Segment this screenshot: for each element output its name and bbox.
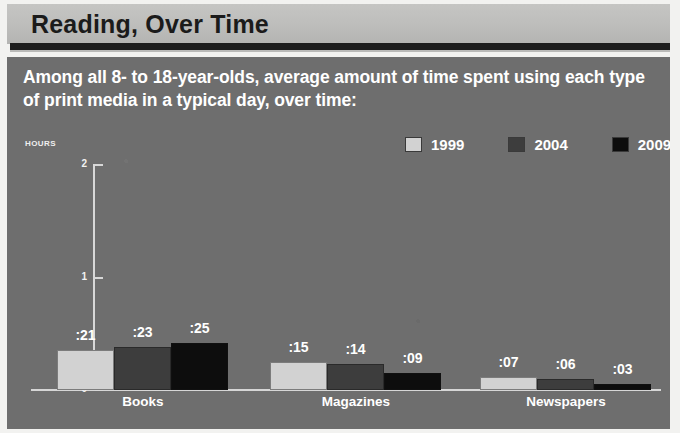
bar <box>171 343 228 390</box>
bar-value-label: :23 <box>114 324 171 340</box>
category-label: Newspapers <box>486 394 646 409</box>
bar-value-label: :06 <box>537 356 594 372</box>
title-divider-shadow <box>10 50 670 52</box>
title-band: Reading, Over Time <box>7 4 670 44</box>
bar <box>480 377 537 390</box>
chart-panel: Among all 8- to 18-year-olds, average am… <box>7 57 670 429</box>
category-label: Books <box>63 394 223 409</box>
bar-value-label: :03 <box>594 361 651 377</box>
bars-layer: :21:23:25Books:15:14:09Magazines:07:06:0… <box>7 57 670 429</box>
bar-value-label: :07 <box>480 354 537 370</box>
bar <box>57 350 114 390</box>
bar-value-label: :15 <box>270 339 327 355</box>
bar <box>270 362 327 390</box>
bar <box>537 379 594 390</box>
bar <box>594 384 651 390</box>
category-label: Magazines <box>276 394 436 409</box>
bar-value-label: :09 <box>384 350 441 366</box>
slide: Reading, Over Time Among all 8- to 18-ye… <box>0 0 680 433</box>
bar <box>114 347 171 390</box>
bar-value-label: :14 <box>327 341 384 357</box>
title-divider <box>10 43 670 50</box>
bar <box>327 364 384 390</box>
page-title: Reading, Over Time <box>31 10 269 39</box>
bar-value-label: :25 <box>171 320 228 336</box>
bar-value-label: :21 <box>57 327 114 343</box>
bar <box>384 373 441 390</box>
plot-area: HOURS 2 1 0 :21:23:25Books:15:14:09Magaz… <box>7 57 670 429</box>
